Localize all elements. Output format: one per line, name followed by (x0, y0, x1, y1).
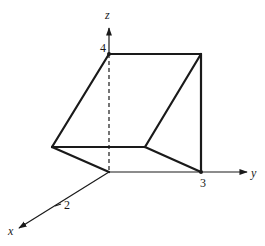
edge-right-base (145, 147, 201, 172)
wedge-edges (52, 54, 201, 172)
z-tick-label: 4 (100, 41, 106, 55)
edge-middle-slant (145, 54, 201, 147)
y-tick-label: 3 (200, 176, 206, 190)
vertex-y3 (199, 170, 203, 174)
edge-left-slant (52, 54, 109, 147)
x-axis-label: x (7, 224, 14, 238)
axes (19, 28, 247, 228)
vertex-z4 (107, 52, 111, 56)
edge-left-base (52, 147, 109, 172)
wedge-diagram: z y x 4 3 2 (0, 0, 265, 246)
y-axis-label: y (250, 166, 257, 180)
x-tick-label: 2 (64, 198, 70, 212)
z-axis-label: z (104, 8, 110, 22)
